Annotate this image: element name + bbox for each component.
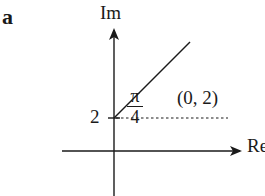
point-label: (0, 2): [177, 87, 218, 109]
imaginary-axis-label: Im: [100, 2, 121, 24]
panel-label: a: [2, 4, 13, 30]
angle-fraction: π 4: [127, 87, 143, 126]
y-intercept-label: 2: [90, 106, 100, 128]
angle-numerator: π: [127, 87, 143, 107]
real-axis-label: Re: [247, 135, 265, 157]
angle-denominator: 4: [127, 107, 143, 126]
